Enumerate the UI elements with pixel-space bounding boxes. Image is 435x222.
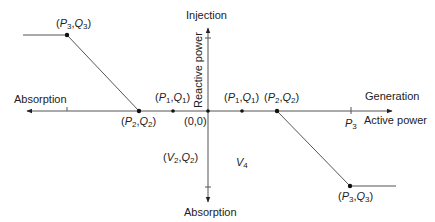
point-origin: [206, 109, 210, 113]
label-right-p3q3: (P3,Q3): [338, 191, 373, 204]
active-power-axis-label: Active power: [364, 115, 427, 126]
absorption-bottom-label: Absorption: [184, 207, 237, 218]
label-left-p3q3: (P3,Q3): [56, 18, 91, 31]
label-left-p1q1: (P1,Q1): [155, 92, 190, 105]
label-v2q2: (V2,Q2): [163, 152, 198, 165]
label-left-p2q2: (P2,Q2): [121, 116, 156, 129]
generation-label: Generation: [365, 91, 419, 102]
point-left-p2q2: [137, 109, 141, 113]
diagram-canvas: [0, 0, 435, 222]
point-right-p3q3: [348, 184, 352, 188]
origin-label: (0,0): [184, 116, 207, 127]
reactive-power-axis-label: Reactive power: [193, 32, 204, 108]
point-left-p3q3: [65, 33, 69, 37]
p3-tick-label: P3: [345, 118, 357, 131]
point-right-p2q2: [275, 109, 279, 113]
point-right-p1q1: [240, 109, 244, 113]
label-right-p1q1: (P1,Q1): [224, 92, 259, 105]
point-left-p1q1: [171, 109, 175, 113]
injection-label: Injection: [186, 10, 227, 21]
absorption-left-label: Absorption: [14, 94, 67, 105]
label-right-p2q2: (P2,Q2): [264, 92, 299, 105]
region-v4-label: V4: [236, 157, 248, 170]
